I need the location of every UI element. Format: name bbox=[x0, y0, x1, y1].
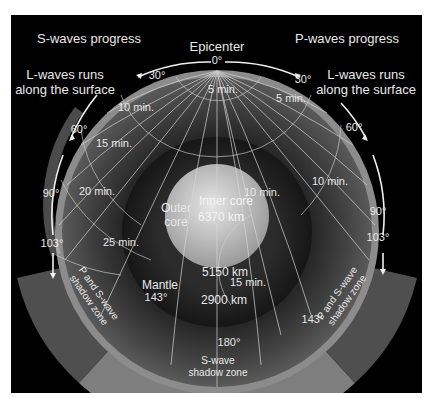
earth-seismic-wave-diagram: S-waves progress P-waves progress Epicen… bbox=[11, 15, 422, 393]
angle-90-left: 90° bbox=[43, 187, 60, 199]
angle-0: 0° bbox=[212, 54, 223, 66]
angle-103-right: 103° bbox=[367, 231, 390, 243]
arrowhead-icon bbox=[362, 134, 368, 141]
arrowhead-icon bbox=[136, 73, 142, 79]
inner-core-label: Inner core bbox=[199, 194, 253, 208]
epicenter-label: Epicenter bbox=[190, 39, 246, 54]
mantle-label: Mantle bbox=[142, 278, 178, 292]
time-5min-left: 5 min. bbox=[208, 83, 238, 95]
outer-core-label-1: Outer bbox=[161, 201, 191, 215]
time-20min-left: 20 min. bbox=[79, 185, 115, 197]
l-waves-left-1: L-waves runs bbox=[26, 67, 104, 82]
angle-90-right: 90° bbox=[370, 205, 387, 217]
diagram-canvas: S-waves progress P-waves progress Epicen… bbox=[11, 15, 422, 393]
angle-180: 180° bbox=[218, 336, 241, 348]
title-p-waves: P-waves progress bbox=[295, 31, 400, 46]
angle-103-left: 103° bbox=[41, 237, 64, 249]
angle-60-left: 60° bbox=[71, 123, 88, 135]
angle-143-left: 143° bbox=[145, 291, 168, 303]
l-waves-right-2: along the surface bbox=[316, 82, 416, 97]
outer-core-label-2: core bbox=[164, 215, 188, 229]
title-s-waves: S-waves progress bbox=[37, 31, 142, 46]
time-10min-left: 10 min. bbox=[118, 101, 154, 113]
angle-60-right: 60° bbox=[346, 121, 363, 133]
s-shadow-label-2: shadow zone bbox=[189, 367, 248, 378]
l-waves-left-2: along the surface bbox=[15, 82, 115, 97]
angle-30-left: 30° bbox=[149, 69, 166, 81]
mantle-depth: 2900 km bbox=[201, 293, 247, 307]
angle-30-right: 30° bbox=[295, 73, 312, 85]
time-15min-left: 15 min. bbox=[96, 137, 132, 149]
time-25min-left: 25 min. bbox=[103, 236, 139, 248]
outer-core-depth: 5150 km bbox=[202, 265, 248, 279]
time-10min-right-outer: 10 min. bbox=[312, 175, 348, 187]
time-5min-right: 5 min. bbox=[276, 92, 306, 104]
l-waves-right-1: L-waves runs bbox=[327, 67, 405, 82]
arrowhead-icon bbox=[69, 134, 75, 141]
inner-core-depth: 6370 km bbox=[198, 210, 244, 224]
s-shadow-label-1: S-wave bbox=[201, 355, 235, 366]
